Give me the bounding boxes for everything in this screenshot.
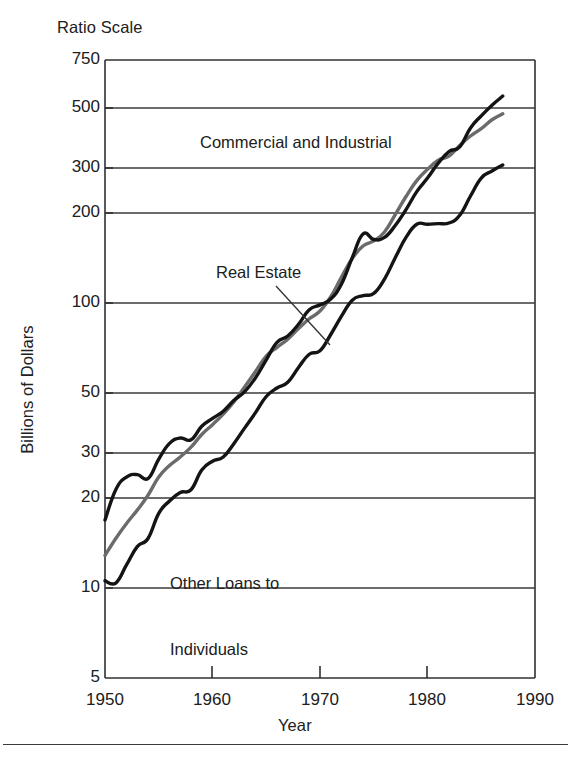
annotation-real-estate: Real Estate: [216, 263, 301, 282]
annotation-other-loans: Other Loans to Individuals: [170, 528, 279, 704]
x-tick-label: 1990: [500, 690, 570, 710]
x-tick-label: 1950: [70, 690, 140, 710]
footer-divider: [3, 744, 568, 745]
x-axis-tick-labels: 1950 1960 1970 1980 1990: [0, 0, 571, 762]
x-tick-label: 1970: [285, 690, 355, 710]
x-tick-label: 1980: [392, 690, 462, 710]
annotation-other-loans-line2: Individuals: [170, 638, 279, 660]
annotation-commercial-industrial: Commercial and Industrial: [200, 133, 392, 152]
chart-figure: Ratio Scale Billions of Dollars Year 750…: [0, 0, 571, 762]
annotation-other-loans-line1: Other Loans to: [170, 572, 279, 594]
